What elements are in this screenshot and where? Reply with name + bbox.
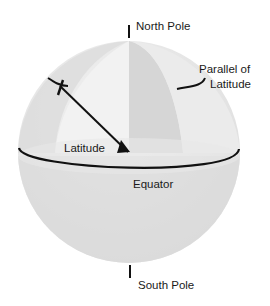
parallel-label-line1: Parallel of [199, 63, 251, 75]
north-pole-label: North Pole [136, 20, 190, 32]
latitude-diagram: North Pole Parallel of Latitude Latitude… [0, 0, 270, 306]
latitude-angle-label: Latitude [64, 142, 105, 154]
south-pole-label: South Pole [138, 279, 194, 291]
parallel-label-line2: Latitude [210, 78, 251, 90]
equator-label: Equator [133, 178, 173, 190]
